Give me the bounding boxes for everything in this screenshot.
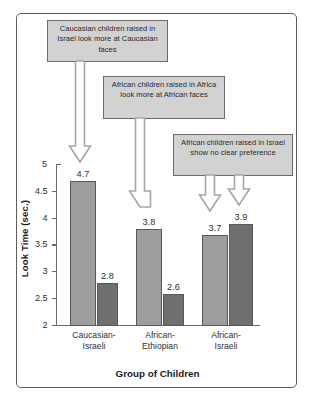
bar-caucasian-israeli-caucasian-faces: [70, 181, 96, 326]
bar-african-ethiopian-african-faces: [163, 294, 184, 326]
y-tick-4-5: 4.5: [52, 191, 57, 192]
bar-african-israeli-african-faces: [229, 224, 253, 326]
callout-arrow-down-icon-1: [68, 61, 92, 167]
bar-value-3-7: 3.7: [209, 223, 222, 233]
bar-caucasian-israeli-african-faces: [97, 283, 118, 326]
y-axis-title: Look Time (sec.): [19, 200, 30, 277]
y-axis-line: [56, 165, 57, 326]
bar-value-2-8: 2.8: [101, 271, 114, 281]
x-tick-label-african-ethiopian: African- Ethiopian: [142, 330, 178, 352]
x-tick-label-african-israeli: African- Israeli: [211, 330, 241, 352]
bar-value-3-9: 3.9: [235, 212, 248, 222]
annotation-callout-african-ethiopian: African children raised in Africa look m…: [103, 76, 225, 119]
y-tick-4: 4: [52, 218, 57, 219]
annotation-callout-caucasian-israeli: Caucasian children raised in Israel look…: [47, 20, 168, 62]
y-tick-2: 2: [52, 325, 57, 326]
figure-container: Caucasian children raised in Israel look…: [0, 0, 315, 413]
plot-area: 2 2.5 3 3.5 4 4.5 5 4.7 2.8 Caucasian- I…: [56, 163, 260, 326]
x-axis-title: Group of Children: [0, 368, 315, 379]
bar-value-2-6: 2.6: [167, 282, 180, 292]
x-tick-label-caucasian-israeli: Caucasian- Israeli: [72, 330, 115, 352]
bar-value-3-8: 3.8: [143, 217, 156, 227]
y-tick-5: 5: [56, 164, 61, 165]
bar-african-israeli-caucasian-faces: [202, 235, 228, 326]
y-tick-3-5: 3.5: [52, 244, 57, 245]
y-tick-2-5: 2.5: [52, 298, 57, 299]
y-tick-3: 3: [52, 271, 57, 272]
bar-african-ethiopian-caucasian-faces: [136, 229, 162, 326]
bar-value-4-7: 4.7: [77, 169, 90, 179]
